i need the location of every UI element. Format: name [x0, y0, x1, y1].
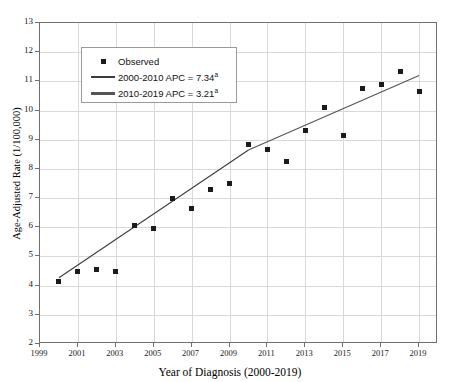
x-tick-label-2011: 2011 [246, 349, 286, 358]
x-tick-1999 [39, 343, 40, 347]
y-tick-8 [35, 168, 39, 169]
y-tick-12 [35, 51, 39, 52]
x-tick-label-2009: 2009 [209, 349, 249, 358]
line-marker-icon [88, 76, 118, 78]
line-marker-thick-icon [88, 92, 118, 95]
y-tick-4 [35, 285, 39, 286]
chart-legend: Observed 2000-2010 APC = 7.34a 2010-2019… [81, 47, 237, 103]
trend-line-2010-2019 [248, 76, 419, 150]
y-tick-label-3: 3 [8, 309, 33, 318]
x-tick-2009 [229, 343, 230, 347]
x-tick-2007 [191, 343, 192, 347]
data-point [56, 279, 61, 284]
data-point [322, 105, 327, 110]
data-point [303, 128, 308, 133]
x-tick-label-2013: 2013 [284, 349, 324, 358]
data-point [284, 159, 289, 164]
chart-canvas: Observed 2000-2010 APC = 7.34a 2010-2019… [0, 0, 460, 382]
y-tick-5 [35, 255, 39, 256]
y-tick-9 [35, 139, 39, 140]
y-tick-7 [35, 197, 39, 198]
data-point [246, 142, 251, 147]
trend-line-2000-2010 [59, 150, 249, 278]
data-point [132, 223, 137, 228]
x-tick-2015 [342, 343, 343, 347]
data-point [379, 82, 384, 87]
legend-label-apc-2000-2010: 2000-2010 APC = 7.34a [118, 71, 218, 83]
y-tick-11 [35, 80, 39, 81]
legend-label-observed: Observed [118, 56, 159, 67]
data-point [94, 267, 99, 272]
x-tick-2011 [266, 343, 267, 347]
data-point [417, 89, 422, 94]
plot-area: Observed 2000-2010 APC = 7.34a 2010-2019… [39, 22, 437, 343]
data-point [170, 196, 175, 201]
y-tick-13 [35, 22, 39, 23]
y-tick-label-12: 12 [8, 46, 33, 55]
data-point [208, 187, 213, 192]
x-tick-2019 [418, 343, 419, 347]
legend-item-apc-2010-2019: 2010-2019 APC = 3.21a [88, 85, 230, 101]
y-tick-10 [35, 110, 39, 111]
y-tick-3 [35, 314, 39, 315]
data-point [151, 226, 156, 231]
x-tick-label-2007: 2007 [171, 349, 211, 358]
x-axis-title: Year of Diagnosis (2000-2019) [0, 366, 460, 378]
x-tick-2013 [304, 343, 305, 347]
x-tick-label-2015: 2015 [322, 349, 362, 358]
legend-item-apc-2000-2010: 2000-2010 APC = 7.34a [88, 69, 230, 85]
data-point [189, 206, 194, 211]
legend-label-apc-2010-2019: 2010-2019 APC = 3.21a [118, 87, 218, 99]
y-tick-label-2: 2 [8, 338, 33, 347]
x-tick-2001 [77, 343, 78, 347]
x-tick-2017 [380, 343, 381, 347]
data-point [113, 269, 118, 274]
data-point [360, 86, 365, 91]
x-tick-label-2001: 2001 [57, 349, 97, 358]
x-tick-label-2017: 2017 [360, 349, 400, 358]
square-marker-icon [88, 59, 118, 64]
data-point [265, 147, 270, 152]
legend-item-observed: Observed [88, 53, 230, 69]
x-tick-label-1999: 1999 [19, 349, 59, 358]
x-tick-2003 [115, 343, 116, 347]
data-point [75, 269, 80, 274]
data-point [341, 133, 346, 138]
x-tick-label-2005: 2005 [133, 349, 173, 358]
x-tick-label-2003: 2003 [95, 349, 135, 358]
data-point [398, 69, 403, 74]
y-tick-6 [35, 226, 39, 227]
y-tick-label-13: 13 [8, 17, 33, 26]
data-point [227, 181, 232, 186]
y-tick-label-4: 4 [8, 280, 33, 289]
x-tick-label-2019: 2019 [398, 349, 438, 358]
x-tick-2005 [153, 343, 154, 347]
y-axis-title: Age-Adjusted Rate (1/100,000) [11, 74, 22, 274]
